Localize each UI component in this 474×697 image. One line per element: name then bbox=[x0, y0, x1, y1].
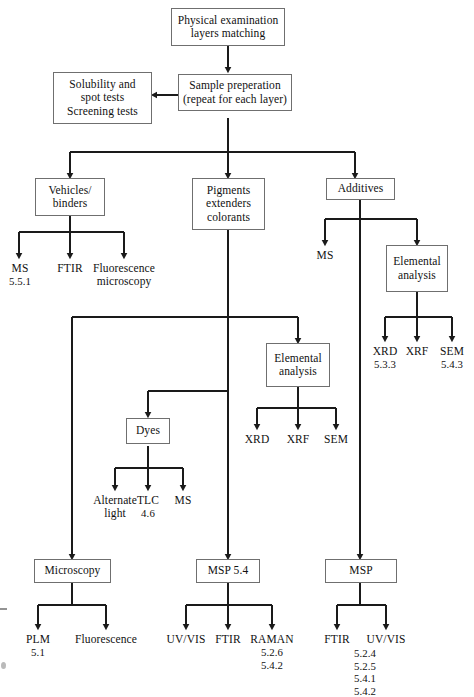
leaf-vehicles-fluorescence-label2: microscopy bbox=[86, 275, 162, 287]
node-elemental-analysis-additives[interactable]: Elemental analysis bbox=[386, 245, 448, 292]
leaf-msp54-ftir-label: FTIR bbox=[215, 633, 240, 645]
leaf-vehicles-ftir-label: FTIR bbox=[57, 262, 82, 274]
node-microscopy-line1: Microscopy bbox=[45, 564, 101, 578]
leaf-msp54-uvvis: UV/VIS bbox=[160, 633, 212, 646]
leaf-msp-uvvis-label: UV/VIS bbox=[367, 633, 406, 645]
leaf-additives-xrf: XRF bbox=[397, 345, 437, 358]
node-elemental-additives-line2: analysis bbox=[393, 269, 441, 283]
leaf-msp54-raman: RAMAN 5.2.6 5.4.2 bbox=[244, 633, 300, 671]
node-sample-preperation-line1: Sample preperation bbox=[183, 79, 287, 93]
leaf-microscopy-plm-refs: 5.1 bbox=[18, 646, 58, 658]
node-elemental-analysis-pigments[interactable]: Elemental analysis bbox=[266, 343, 330, 387]
leaf-additives-xrd-label: XRD bbox=[373, 345, 398, 357]
leaf-additives-xrd-refs: 5.3.3 bbox=[365, 358, 405, 370]
node-vehicles-line2: binders bbox=[48, 197, 91, 211]
node-solubility-line3: Screening tests bbox=[67, 105, 138, 119]
node-physical-examination-line1: Physical examination bbox=[178, 14, 279, 28]
leaf-microscopy-plm-label: PLM bbox=[26, 633, 50, 645]
leaf-microscopy-fluorescence: Fluorescence bbox=[68, 633, 144, 646]
leaf-dyes-ms: MS bbox=[163, 494, 203, 507]
node-vehicles-binders[interactable]: Vehicles/ binders bbox=[35, 178, 105, 216]
page-artifact-mark-2 bbox=[1, 662, 6, 669]
leaf-vehicles-ms-refs: 5.5.1 bbox=[0, 275, 40, 287]
leaf-msp-reference-list: 5.2.4 5.2.5 5.4.1 5.4.2 bbox=[339, 647, 391, 697]
node-pigments-line2: extenders bbox=[206, 197, 251, 211]
leaf-vehicles-fluorescence-label: Fluorescence bbox=[93, 262, 155, 274]
node-physical-examination-line2: layers matching bbox=[178, 27, 279, 41]
node-additives-line1: Additives bbox=[338, 182, 384, 196]
leaf-pigments-xrd: XRD bbox=[237, 433, 277, 446]
node-pigments-line1: Pigments bbox=[206, 184, 251, 198]
leaf-pigments-xrf-label: XRF bbox=[287, 433, 310, 445]
leaf-additives-ms-label: MS bbox=[317, 249, 334, 261]
node-vehicles-line1: Vehicles/ bbox=[48, 184, 91, 198]
node-elemental-pigments-line1: Elemental bbox=[274, 352, 322, 366]
leaf-msp54-uvvis-label: UV/VIS bbox=[167, 633, 206, 645]
node-microscopy[interactable]: Microscopy bbox=[34, 559, 111, 583]
leaf-pigments-xrd-label: XRD bbox=[245, 433, 270, 445]
node-additives[interactable]: Additives bbox=[326, 178, 395, 200]
node-msp-line1: MSP bbox=[349, 564, 372, 578]
node-dyes-line1: Dyes bbox=[136, 424, 160, 438]
node-physical-examination[interactable]: Physical examination layers matching bbox=[171, 8, 285, 46]
leaf-microscopy-plm: PLM 5.1 bbox=[18, 633, 58, 659]
leaf-additives-sem-label: SEM bbox=[440, 345, 464, 357]
leaf-microscopy-fluorescence-label: Fluorescence bbox=[75, 633, 137, 645]
leaf-vehicles-ms-label: MS bbox=[12, 262, 29, 274]
leaf-msp-ftir: FTIR bbox=[315, 633, 359, 646]
node-elemental-additives-line1: Elemental bbox=[393, 255, 441, 269]
page-artifact-mark-1 bbox=[0, 608, 7, 610]
leaf-msp54-raman-refs: 5.2.6 5.4.2 bbox=[244, 646, 300, 671]
leaf-msp-ftir-label: FTIR bbox=[324, 633, 349, 645]
leaf-dyes-tlc-refs: 4.6 bbox=[128, 507, 168, 519]
leaf-msp-uvvis: UV/VIS bbox=[360, 633, 412, 646]
node-sample-preperation[interactable]: Sample preperation (repeat for each laye… bbox=[178, 74, 292, 111]
node-solubility-line1: Solubility and bbox=[67, 78, 138, 92]
node-pigments-line3: colorants bbox=[206, 211, 251, 225]
leaf-vehicles-ms: MS 5.5.1 bbox=[0, 262, 40, 288]
leaf-pigments-sem-label: SEM bbox=[324, 433, 348, 445]
node-pigments-extenders-colorants[interactable]: Pigments extenders colorants bbox=[192, 178, 265, 230]
node-msp[interactable]: MSP bbox=[325, 559, 397, 583]
leaf-msp-reference-list-refs: 5.2.4 5.2.5 5.4.1 5.4.2 bbox=[339, 647, 391, 697]
node-msp-54[interactable]: MSP 5.4 bbox=[196, 559, 260, 583]
leaf-additives-sem-refs: 5.4.3 bbox=[432, 358, 472, 370]
leaf-dyes-ms-label: MS bbox=[175, 494, 192, 506]
leaf-additives-ms: MS bbox=[305, 249, 345, 262]
leaf-vehicles-fluorescence-microscopy: Fluorescence microscopy bbox=[86, 262, 162, 288]
leaf-additives-sem: SEM 5.4.3 bbox=[432, 345, 472, 371]
leaf-msp54-raman-label: RAMAN bbox=[250, 633, 293, 645]
node-solubility-line2: spot tests bbox=[67, 91, 138, 105]
node-msp-54-line1: MSP 5.4 bbox=[208, 564, 249, 578]
leaf-dyes-tlc: TLC 4.6 bbox=[128, 494, 168, 520]
node-dyes[interactable]: Dyes bbox=[126, 418, 170, 444]
leaf-pigments-sem: SEM bbox=[316, 433, 356, 446]
node-elemental-pigments-line2: analysis bbox=[274, 365, 322, 379]
node-sample-preperation-line2: (repeat for each layer) bbox=[183, 93, 287, 107]
node-solubility-spot-tests[interactable]: Solubility and spot tests Screening test… bbox=[53, 72, 152, 124]
leaf-additives-xrf-label: XRF bbox=[406, 345, 429, 357]
leaf-pigments-xrf: XRF bbox=[278, 433, 318, 446]
leaf-dyes-tlc-label: TLC bbox=[137, 494, 159, 506]
